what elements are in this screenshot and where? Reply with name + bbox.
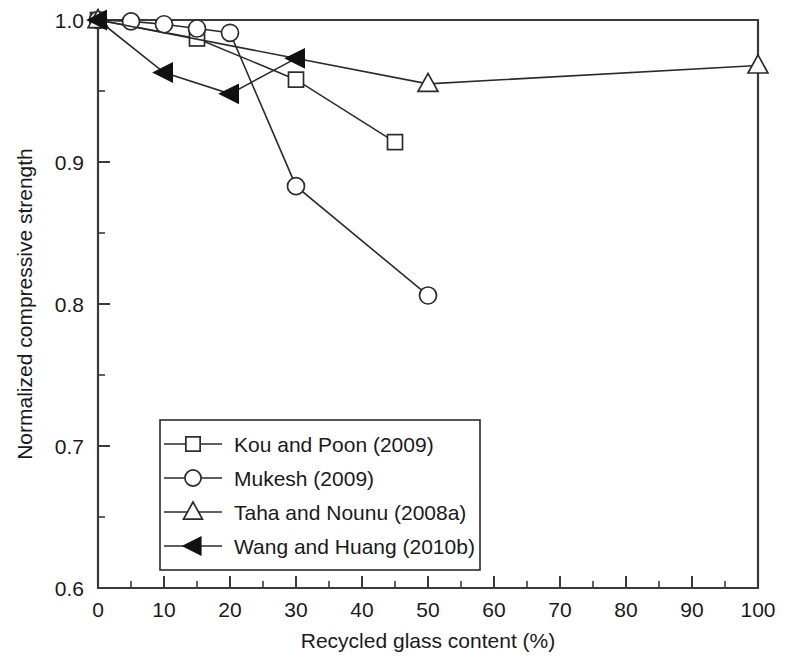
series-polyline [98,20,395,142]
x-tick-label: 20 [218,598,241,621]
legend-item-label: Taha and Nounu (2008a) [234,501,466,524]
data-point-marker [220,84,239,103]
x-tick-label: 60 [482,598,505,621]
x-tick-label: 50 [416,598,439,621]
chart-legend: Kou and Poon (2009)Mukesh (2009)Taha and… [160,420,480,570]
data-series [91,13,403,150]
data-point-marker [289,72,304,87]
series-polyline [98,20,428,295]
legend-item[interactable]: Mukesh (2009) [164,467,374,490]
chart-plot-area: 0102030405060708090100 0.60.70.80.91.0 R… [0,0,790,668]
y-axis-tick-labels: 0.60.70.80.91.0 [55,9,84,600]
data-point-marker [748,55,768,73]
data-point-marker [185,470,201,486]
data-series [88,10,768,92]
x-tick-label: 70 [548,598,571,621]
y-tick-label: 0.9 [55,151,84,174]
y-tick-label: 0.8 [55,293,84,316]
x-tick-label: 30 [284,598,307,621]
data-point-marker [388,135,403,150]
data-point-marker [420,287,437,304]
data-point-marker [186,437,200,451]
data-series-group [88,10,768,304]
x-tick-label: 80 [614,598,637,621]
legend-item-label: Wang and Huang (2010b) [234,535,475,558]
x-tick-label: 10 [152,598,175,621]
data-point-marker [189,20,206,37]
x-axis-title: Recycled glass content (%) [301,629,555,652]
y-axis-ticks [98,20,110,588]
x-tick-label: 40 [350,598,373,621]
legend-item-label: Mukesh (2009) [234,467,374,490]
x-axis-ticks [98,576,758,588]
x-axis-tick-labels: 0102030405060708090100 [92,598,775,621]
data-point-marker [222,24,239,41]
y-axis-title: Normalized compressive strength [13,148,36,460]
data-point-marker [156,16,173,33]
data-point-marker [286,49,305,68]
x-tick-label: 0 [92,598,104,621]
chart-figure: 0102030405060708090100 0.60.70.80.91.0 R… [0,0,790,668]
x-tick-label: 90 [680,598,703,621]
legend-item-label: Kou and Poon (2009) [234,433,434,456]
y-tick-label: 0.7 [55,435,84,458]
y-tick-label: 0.6 [55,577,84,600]
x-tick-label: 100 [740,598,775,621]
y-tick-label: 1.0 [55,9,84,32]
data-point-marker [288,178,305,195]
